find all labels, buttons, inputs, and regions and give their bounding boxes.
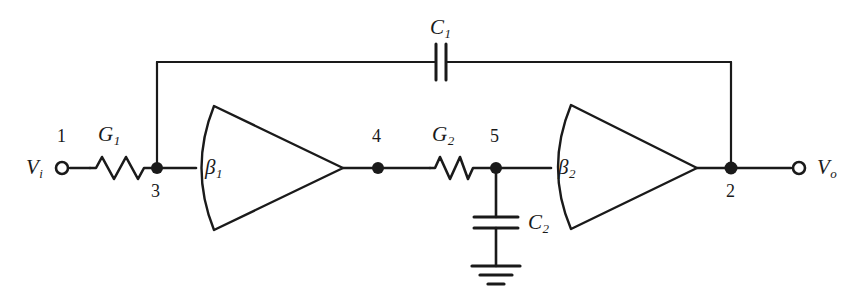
node-number-4: 4 bbox=[372, 127, 381, 145]
label-capacitor-c2: C2 bbox=[528, 212, 549, 235]
resistor-g1-symbol bbox=[90, 157, 157, 179]
label-amplifier-beta2: β2 bbox=[558, 157, 575, 180]
node-number-1: 1 bbox=[57, 127, 66, 145]
junction-dot-node4 bbox=[372, 162, 384, 174]
label-resistor-g1: G1 bbox=[98, 124, 120, 147]
terminal-vo-circle[interactable] bbox=[793, 162, 805, 174]
label-capacitor-c1: C1 bbox=[430, 17, 451, 40]
label-amplifier-beta1: β1 bbox=[205, 157, 222, 180]
circuit-diagram-canvas: Vi 1 G1 3 β1 4 G2 5 C2 β2 C1 2 Vo bbox=[0, 0, 862, 298]
terminal-vi-circle[interactable] bbox=[56, 162, 68, 174]
label-resistor-g2: G2 bbox=[432, 124, 454, 147]
junction-dot-node5 bbox=[490, 162, 502, 174]
node-number-2: 2 bbox=[726, 182, 735, 200]
label-output-voltage: Vo bbox=[817, 157, 837, 180]
amplifier-beta1-body bbox=[202, 106, 344, 230]
label-input-voltage: Vi bbox=[26, 157, 43, 180]
node-number-3: 3 bbox=[151, 182, 160, 200]
junction-dot-node3 bbox=[151, 162, 163, 174]
node-number-5: 5 bbox=[490, 127, 499, 145]
amplifier-beta2-body bbox=[558, 105, 697, 229]
resistor-g2-symbol bbox=[430, 157, 496, 179]
junction-dot-node2 bbox=[725, 162, 738, 175]
schematic-svg bbox=[0, 0, 862, 298]
